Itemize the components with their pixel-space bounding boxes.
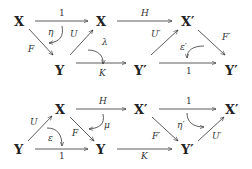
label-top-U: U — [70, 29, 78, 39]
label-bottom-F: F — [71, 128, 79, 138]
label-top-lambda: λ — [101, 37, 108, 47]
node-top-y1: Y — [54, 63, 65, 78]
top-diagram: X X X′ Y Y′ Y′ 1 H F U K U′ F′ 1 η λ ε′ — [14, 8, 238, 78]
node-bottom-x2: X′ — [134, 102, 148, 117]
label-top-F: F — [27, 44, 35, 54]
twocell-top-epsilon-prime — [187, 46, 204, 58]
label-bottom-1b: 1 — [59, 151, 65, 161]
node-top-x2: X — [96, 14, 107, 29]
node-top-x1: X — [14, 14, 25, 29]
node-top-x3: X′ — [181, 14, 195, 29]
label-top-epsilon-prime: ε′ — [180, 42, 187, 52]
twocell-bottom-eta-prime — [187, 113, 204, 127]
label-bottom-1a: 1 — [186, 96, 192, 106]
label-bottom-K: K — [140, 151, 149, 161]
label-bottom-U: U — [30, 117, 38, 127]
label-top-K: K — [98, 68, 107, 78]
twocell-top-lambda — [88, 50, 103, 64]
commutative-diagrams: X X X′ Y Y′ Y′ 1 H F U K U′ F′ 1 η λ ε′ … — [0, 0, 252, 169]
arrow-top-x3-y3 — [198, 30, 225, 55]
label-top-F-prime: F′ — [221, 32, 230, 42]
label-top-eta: η — [48, 27, 54, 37]
label-bottom-eta-prime: η′ — [177, 120, 184, 130]
label-bottom-epsilon: ε — [48, 133, 53, 143]
label-top-1b: 1 — [186, 66, 192, 76]
label-top-H: H — [140, 8, 149, 18]
node-bottom-y1: Y — [13, 142, 24, 157]
label-bottom-F-prime: F′ — [151, 131, 160, 141]
twocell-bottom-mu — [89, 114, 103, 129]
label-bottom-U-prime: U′ — [212, 131, 222, 141]
bottom-diagram: X X′ X′ Y Y Y′ U H 1 F 1 K F′ U′ ε μ η′ — [13, 96, 239, 161]
node-top-y3: Y′ — [224, 63, 238, 78]
label-bottom-H: H — [98, 96, 107, 106]
node-bottom-y3: Y′ — [180, 142, 194, 157]
node-bottom-y2: Y — [95, 142, 106, 157]
node-bottom-x1: X — [55, 102, 66, 117]
label-top-U-prime: U′ — [151, 29, 161, 39]
node-bottom-x3: X′ — [225, 102, 239, 117]
label-top-1a: 1 — [59, 8, 65, 18]
node-top-y2: Y′ — [133, 63, 147, 78]
label-bottom-mu: μ — [104, 120, 110, 130]
